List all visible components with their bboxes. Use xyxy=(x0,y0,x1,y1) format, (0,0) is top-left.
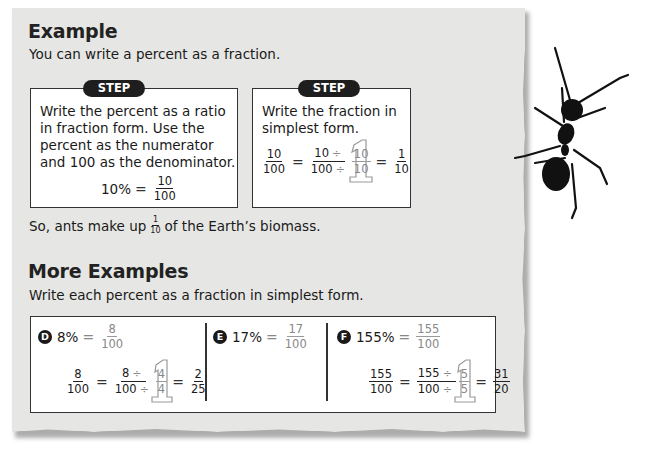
step-1-box: STEP 1 Write the percent as a ratio in f… xyxy=(30,88,238,208)
step-2-badge: STEP 2 xyxy=(298,80,360,97)
divider xyxy=(326,323,328,401)
letter-f-icon: F xyxy=(337,330,351,344)
example-e-header: E 17% = 17100 xyxy=(213,323,310,350)
example-title: Example xyxy=(28,20,117,42)
step-2-equation: 10 100 = 10÷ 100÷ 10 10 = 1 10 xyxy=(260,147,412,176)
big-one-icon: 10 10 xyxy=(352,148,371,175)
big-one-icon: 5 5 xyxy=(459,368,470,395)
example-d-work: 8100 = 8÷ 100÷ 4 4 = 225 xyxy=(64,367,209,396)
big-one-icon: 4 4 xyxy=(156,368,167,395)
more-examples-title: More Examples xyxy=(28,260,188,282)
more-examples-box: D 8% = 8100 8100 = 8÷ 100÷ 4 4 = 225 E 1… xyxy=(30,316,496,413)
step-1-text: Write the percent as a ratio in fraction… xyxy=(40,103,235,171)
example-intro: You can write a percent as a fraction. xyxy=(29,46,280,62)
step-2-text: Write the fraction in simplest form. xyxy=(262,103,397,137)
fraction: 10 100 xyxy=(153,175,177,202)
step-2-box: STEP 2 Write the fraction in simplest fo… xyxy=(252,88,411,208)
letter-e-icon: E xyxy=(213,330,227,344)
example-f-header: F 155% = 155100 xyxy=(337,323,442,350)
example-d-header: D 8% = 8100 xyxy=(38,323,126,350)
letter-d-icon: D xyxy=(38,330,52,344)
step-1-equation: 10% = 10 100 xyxy=(101,175,179,202)
conclusion-text: So, ants make up 1 10 of the Earth’s bio… xyxy=(29,216,320,235)
example-f-work: 155100 = 155÷ 100÷ 5 5 = 3120 xyxy=(367,367,512,396)
step-1-badge: STEP 1 xyxy=(83,80,145,97)
ant-icon xyxy=(490,38,640,228)
more-examples-intro: Write each percent as a fraction in simp… xyxy=(29,287,364,303)
